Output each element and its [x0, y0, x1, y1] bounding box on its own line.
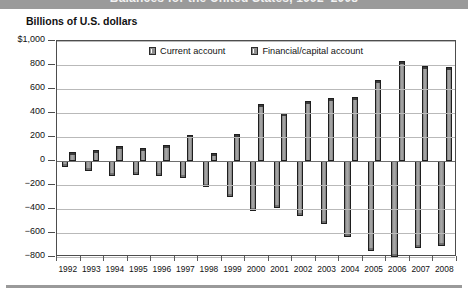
bar-financial-capital-account-1994: [116, 146, 122, 161]
chart-title-banner: Balances for the United States, 1992–200…: [0, 0, 468, 9]
page-title: Balances for the United States, 1992–200…: [110, 0, 358, 5]
y-axis-tick-mark: [48, 232, 55, 233]
x-axis-tick-mark: [409, 256, 410, 261]
y-axis-tick-label: −400: [25, 202, 45, 212]
legend-swatch-icon: [149, 47, 156, 55]
bar-current-account-1994: [109, 161, 115, 176]
x-axis-labels: 1992199319941995199619971998199920002001…: [56, 264, 456, 278]
bar-group: [57, 41, 455, 255]
x-axis-tick-mark: [244, 256, 245, 261]
x-axis-tick-label: 2008: [427, 264, 461, 274]
footer-rule: [6, 285, 462, 288]
legend-label: Current account: [160, 46, 225, 56]
x-axis-tick-mark: [80, 256, 81, 261]
bar-financial-capital-account-1996: [163, 145, 169, 161]
bar-current-account-2003: [321, 161, 327, 224]
legend-item-current-account: Current account: [149, 46, 225, 56]
bar-current-account-2002: [297, 161, 303, 216]
x-axis-tick-mark: [197, 256, 198, 261]
bar-financial-capital-account-2004: [352, 97, 358, 161]
y-axis-tick-label: −200: [25, 178, 45, 188]
x-axis-tick-mark: [127, 256, 128, 261]
bar-financial-capital-account-2002: [305, 101, 311, 161]
x-axis-tick-mark: [56, 256, 57, 261]
gridline: [57, 209, 455, 210]
y-axis: $1,0008006004002000−200−400−600−800: [0, 0, 56, 292]
x-axis-tick-mark: [268, 256, 269, 261]
gridline: [57, 233, 455, 234]
bar-financial-capital-account-1997: [187, 135, 193, 161]
x-axis-tick-mark: [432, 256, 433, 261]
x-axis-tick-mark: [385, 256, 386, 261]
bar-current-account-1997: [180, 161, 186, 178]
chart-page: Balances for the United States, 1992–200…: [0, 0, 468, 292]
bar-current-account-2000: [250, 161, 256, 211]
y-axis-tick-label: −600: [25, 226, 45, 236]
y-axis-tick-mark: [48, 136, 55, 137]
y-axis-tick-mark: [48, 184, 55, 185]
plot-area: [56, 40, 456, 256]
bar-current-account-1998: [203, 161, 209, 187]
x-axis-tick-mark: [291, 256, 292, 261]
gridline: [57, 65, 455, 66]
bar-current-account-1999: [227, 161, 233, 197]
bar-current-account-1995: [133, 161, 139, 175]
bar-financial-capital-account-1993: [93, 150, 99, 161]
legend-label: Financial/capital account: [262, 46, 363, 56]
bar-current-account-1993: [85, 161, 91, 171]
bar-current-account-1996: [156, 161, 162, 176]
y-axis-tick-mark: [48, 88, 55, 89]
bar-financial-capital-account-1999: [234, 134, 240, 161]
gridline: [57, 89, 455, 90]
x-axis-ticks: [56, 256, 456, 264]
y-axis-tick-mark: [48, 64, 55, 65]
bar-financial-capital-account-2003: [328, 98, 334, 161]
y-axis-tick-label: 200: [30, 130, 45, 140]
y-axis-tick-mark: [48, 208, 55, 209]
bar-current-account-2004: [344, 161, 350, 237]
y-axis-tick-mark: [48, 112, 55, 113]
bar-financial-capital-account-1995: [140, 148, 146, 161]
legend-item-financial-capital-account: Financial/capital account: [251, 46, 363, 56]
x-axis-tick-mark: [103, 256, 104, 261]
x-axis-tick-mark: [315, 256, 316, 261]
y-axis-tick-label: 0: [40, 154, 45, 164]
x-axis-tick-mark: [362, 256, 363, 261]
x-axis-tick-mark: [456, 256, 457, 261]
y-axis-tick-mark: [48, 256, 55, 257]
gridline: [57, 113, 455, 114]
gridline: [57, 185, 455, 186]
y-axis-tick-label: −800: [25, 250, 45, 260]
bar-financial-capital-account-2005: [375, 80, 381, 161]
legend-swatch-icon: [251, 47, 258, 55]
bar-current-account-2007: [415, 161, 421, 248]
x-axis-tick-mark: [221, 256, 222, 261]
gridline: [57, 41, 455, 42]
chart-legend: Current account Financial/capital accoun…: [56, 44, 456, 58]
y-axis-tick-label: 800: [30, 58, 45, 68]
y-axis-tick-label: $1,000: [17, 34, 45, 44]
x-axis-tick-mark: [174, 256, 175, 261]
zero-line: [57, 161, 455, 162]
y-axis-tick-label: 400: [30, 106, 45, 116]
bar-financial-capital-account-1992: [69, 152, 75, 161]
bar-financial-capital-account-1998: [211, 153, 217, 161]
x-axis-tick-mark: [338, 256, 339, 261]
x-axis-tick-mark: [150, 256, 151, 261]
bar-current-account-2005: [368, 161, 374, 251]
bar-financial-capital-account-2006: [399, 61, 405, 161]
gridline: [57, 137, 455, 138]
y-axis-tick-mark: [48, 160, 55, 161]
y-axis-tick-mark: [48, 40, 55, 41]
y-axis-tick-label: 600: [30, 82, 45, 92]
